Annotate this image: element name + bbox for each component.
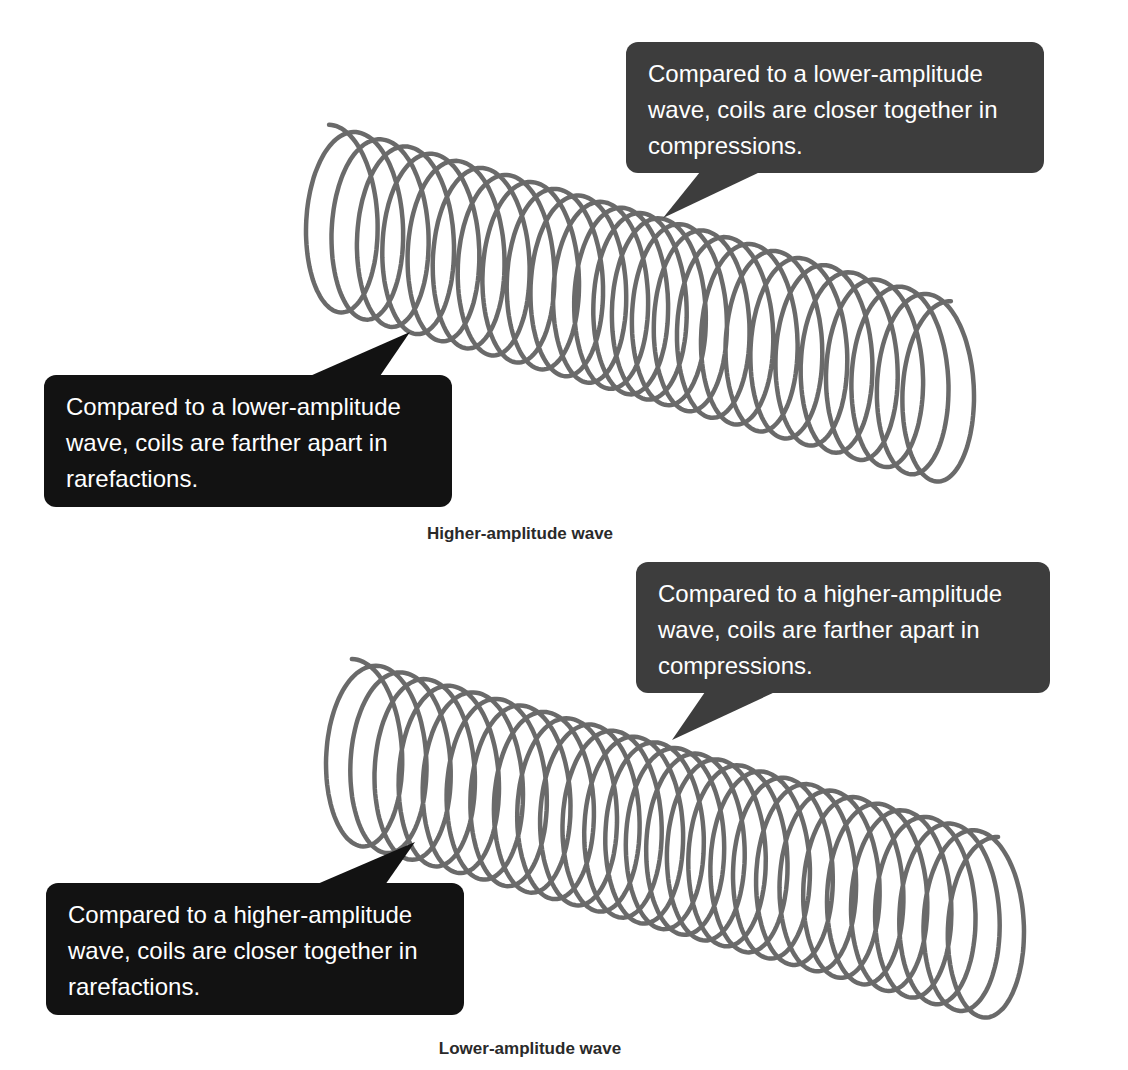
callout-text: Compared to a lower-amplitude wave, coil… <box>648 60 998 159</box>
caption-lower-amplitude: Lower-amplitude wave <box>439 1039 621 1059</box>
rarefaction-callout-higher: Compared to a lower-amplitude wave, coil… <box>44 375 452 507</box>
compression-callout-tail-bottom <box>672 692 775 740</box>
callout-text: Compared to a higher-amplitude wave, coi… <box>68 901 418 1000</box>
callout-text: Compared to a lower-amplitude wave, coil… <box>66 393 401 492</box>
callout-text: Compared to a higher-amplitude wave, coi… <box>658 580 1002 679</box>
rarefaction-callout-tail-top <box>310 332 410 376</box>
rarefaction-callout-lower: Compared to a higher-amplitude wave, coi… <box>46 883 464 1015</box>
caption-higher-amplitude: Higher-amplitude wave <box>427 524 613 544</box>
compression-callout-lower: Compared to a higher-amplitude wave, coi… <box>636 562 1050 693</box>
compression-callout-higher: Compared to a lower-amplitude wave, coil… <box>626 42 1044 173</box>
compression-callout-tail-top <box>663 172 760 218</box>
